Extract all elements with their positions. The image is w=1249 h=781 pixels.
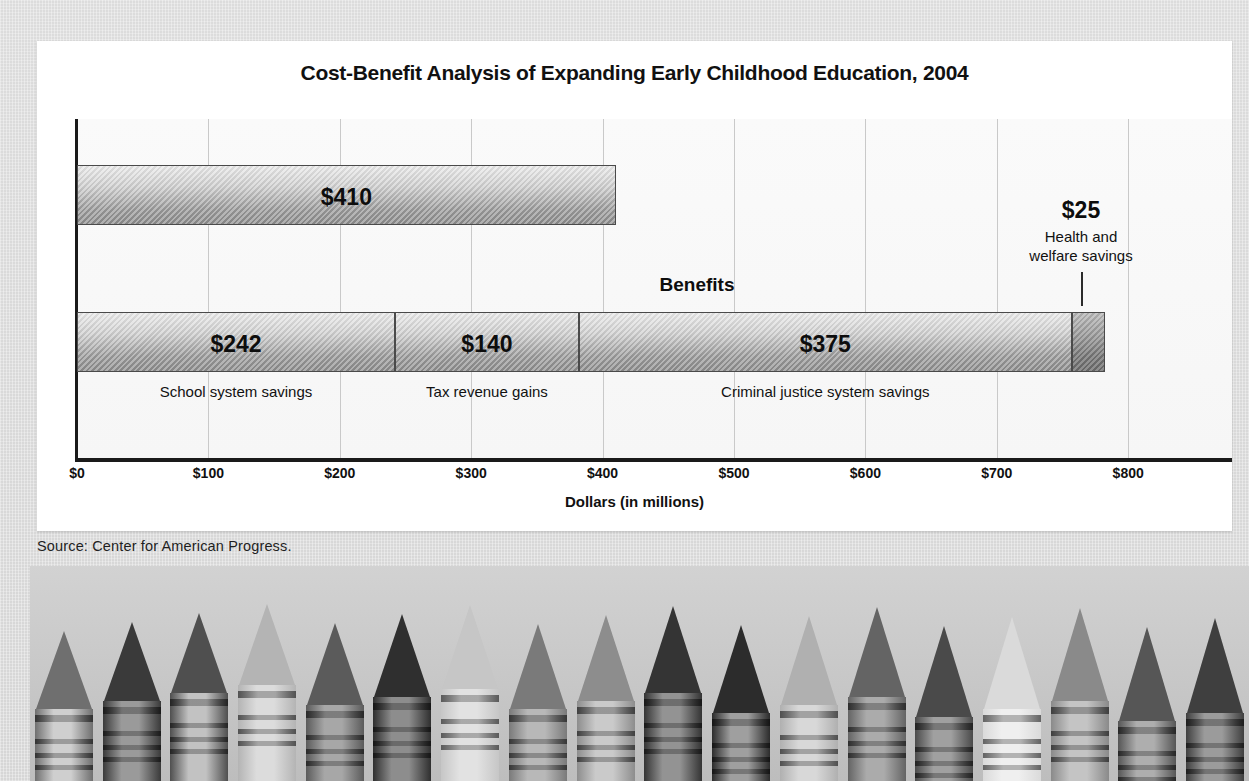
crayon-band [373, 727, 431, 732]
crayon-body [848, 697, 906, 781]
crayon [302, 623, 368, 781]
crayon-band [848, 753, 906, 758]
x-tick-300: $300 [456, 465, 487, 481]
crayon-photo [30, 566, 1249, 781]
crayon-band [238, 729, 296, 734]
source-note: Source: Center for American Progress. [37, 538, 292, 554]
chart-card: Cost-Benefit Analysis of Expanding Early… [37, 41, 1232, 531]
series-label-benefits: Benefits [660, 274, 735, 296]
crayon-band [441, 733, 499, 738]
x-tick-100: $100 [193, 465, 224, 481]
crayon-band [712, 719, 770, 726]
crayon-band [1186, 719, 1244, 726]
crayon [1047, 608, 1113, 781]
crayon-band [35, 715, 93, 722]
crayon-body [1118, 721, 1176, 781]
crayon-band [373, 753, 431, 758]
crayon [708, 625, 774, 781]
crayon-band [103, 707, 161, 714]
x-tick-400: $400 [587, 465, 618, 481]
crayon-tip [645, 606, 701, 693]
crayon-band [780, 749, 838, 754]
x-tick-500: $500 [718, 465, 749, 481]
callout-value-health-welfare: $25 [1062, 197, 1100, 224]
crayon-band [983, 715, 1041, 722]
crayon-band [577, 731, 635, 736]
crayon-band [983, 765, 1041, 770]
crayon-band [1118, 777, 1176, 781]
crayon-tip [36, 631, 92, 709]
crayon-body [577, 701, 635, 781]
crayon-tip [1052, 608, 1108, 701]
crayon-body [983, 709, 1041, 781]
crayon [844, 607, 910, 781]
x-axis-title: Dollars (in millions) [37, 493, 1232, 510]
bar-value-costs: $410 [321, 184, 372, 211]
crayon [234, 604, 300, 781]
page-title: Cost-Benefit Analysis of Expanding Early… [37, 61, 1232, 85]
crayon [1114, 627, 1180, 781]
crayon [979, 617, 1045, 781]
crayon-band [1118, 765, 1176, 770]
crayon-band [170, 749, 228, 754]
crayon-tip [713, 625, 769, 713]
crayon-band [1186, 769, 1244, 774]
callout-label-line2: welfare savings [1029, 247, 1132, 264]
crayon-body [1186, 713, 1244, 781]
bar-value-segment-3: $375 [800, 331, 851, 358]
crayon [166, 613, 232, 781]
bar-value-segment-2: $140 [461, 331, 512, 358]
crayon-band [644, 723, 702, 728]
crayon-band [915, 761, 973, 766]
crayon-band [306, 735, 364, 740]
crayon-body [373, 697, 431, 781]
crayon-band [1051, 731, 1109, 736]
crayon-band [712, 769, 770, 774]
crayon-band [238, 741, 296, 746]
crayon-tip [916, 626, 972, 717]
crayon-tip [239, 604, 295, 685]
crayon-band [1118, 727, 1176, 734]
crayon-body [780, 705, 838, 781]
bar-segment-4[interactable] [1072, 312, 1105, 372]
crayon-band [848, 741, 906, 746]
bar-value-segment-1: $242 [210, 331, 261, 358]
crayon-body [35, 709, 93, 781]
crayon-tip [104, 622, 160, 701]
crayon-band [373, 741, 431, 746]
crayon-band [238, 691, 296, 698]
crayon-tip [307, 623, 363, 705]
crayon-band [1051, 707, 1109, 714]
crayon-band [1051, 757, 1109, 762]
crayon-body [1051, 701, 1109, 781]
crayon-band [509, 715, 567, 722]
crayon-band [915, 723, 973, 730]
crayon-band [848, 727, 906, 732]
crayon [369, 614, 435, 781]
crayon-band [1118, 751, 1176, 756]
crayon-band [103, 731, 161, 736]
crayon-body [103, 701, 161, 781]
crayon-band [712, 757, 770, 762]
crayon-band [509, 739, 567, 744]
crayon-band [577, 745, 635, 750]
crayon-band [780, 735, 838, 740]
crayon [437, 605, 503, 781]
crayon-tip [374, 614, 430, 697]
crayon-band [103, 745, 161, 750]
gridline-700 [997, 119, 998, 458]
crayon-body [306, 705, 364, 781]
crayon-band [983, 753, 1041, 758]
crayon-tip [510, 624, 566, 709]
crayon-tip [442, 605, 498, 689]
crayon-body [915, 717, 973, 781]
crayon-band [780, 711, 838, 718]
gridline-800 [1128, 119, 1129, 458]
crayon-band [509, 753, 567, 758]
x-tick-800: $800 [1113, 465, 1144, 481]
crayon-body [170, 693, 228, 781]
crayon-band [1186, 743, 1244, 748]
crayon-band [441, 745, 499, 750]
x-tick-700: $700 [981, 465, 1012, 481]
crayon-tip [849, 607, 905, 697]
